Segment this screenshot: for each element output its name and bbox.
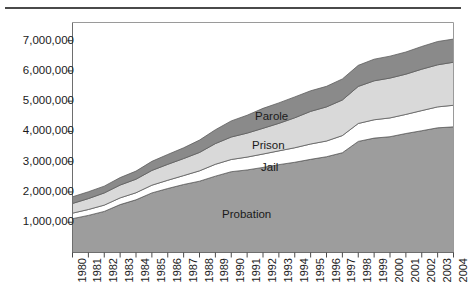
x-tick-label: 1984 <box>140 258 151 297</box>
x-tick-label: 1994 <box>299 258 310 297</box>
x-tick-label: 1986 <box>172 258 183 297</box>
series-label-parole: Parole <box>255 110 288 122</box>
stacked-area-chart: 1,000,0002,000,0003,000,0004,000,0005,00… <box>0 0 469 297</box>
x-tick-label: 2004 <box>458 258 469 297</box>
y-tick-label: 7,000,000 <box>4 35 74 47</box>
series-label-probation: Probation <box>222 208 271 220</box>
x-tick-label: 1985 <box>156 258 167 297</box>
x-tick-label: 1992 <box>267 258 278 297</box>
x-tick-label: 2001 <box>410 258 421 297</box>
x-tick-label: 2000 <box>394 258 405 297</box>
x-tick-label: 1983 <box>124 258 135 297</box>
x-tick-label: 1996 <box>331 258 342 297</box>
x-tick-label: 1999 <box>378 258 389 297</box>
x-tick-label: 1997 <box>346 258 357 297</box>
chart-page: 1,000,0002,000,0003,000,0004,000,0005,00… <box>0 0 469 297</box>
y-tick-label: 1,000,000 <box>4 216 74 228</box>
x-tick-label: 1981 <box>92 258 103 297</box>
series-label-prison: Prison <box>252 139 285 151</box>
x-tick-label: 1991 <box>251 258 262 297</box>
y-tick-label: 5,000,000 <box>4 95 74 107</box>
x-tick-label: 1989 <box>219 258 230 297</box>
x-tick-label: 1982 <box>108 258 119 297</box>
x-axis-ticks <box>73 253 454 258</box>
x-tick-label: 1993 <box>283 258 294 297</box>
x-tick-label: 2003 <box>442 258 453 297</box>
series-label-jail: Jail <box>261 161 278 173</box>
x-tick-label: 2002 <box>426 258 437 297</box>
x-tick-label: 1995 <box>315 258 326 297</box>
y-tick-label: 2,000,000 <box>4 186 74 198</box>
x-tick-label: 1990 <box>235 258 246 297</box>
x-tick-label: 1988 <box>204 258 215 297</box>
x-tick-label: 1980 <box>77 258 88 297</box>
y-tick-label: 3,000,000 <box>4 156 74 168</box>
x-tick-label: 1998 <box>362 258 373 297</box>
y-tick-label: 6,000,000 <box>4 65 74 77</box>
x-tick-label: 1987 <box>188 258 199 297</box>
y-tick-label: 4,000,000 <box>4 125 74 137</box>
